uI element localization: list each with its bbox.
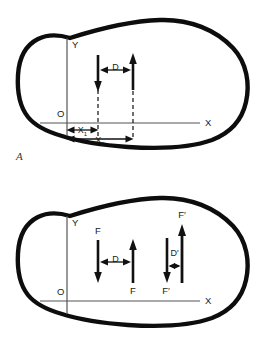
panel-b-drawing: F F D F′ xyxy=(0,178,267,356)
panel-a-drawing: D O Y X X1 X2 xyxy=(0,0,267,178)
y-axis-label-b: Y xyxy=(72,217,79,228)
force-arrow-down-right-b xyxy=(163,238,171,283)
origin-label-b: O xyxy=(57,286,64,297)
dimension-x2-label-a: X2 xyxy=(95,135,105,147)
force-label-f-top-left-b: F xyxy=(95,225,101,236)
dimension-d-label-a: D xyxy=(112,62,119,72)
force-arrow-up-right-b xyxy=(178,224,186,283)
force-label-f-bottom-left-b: F xyxy=(130,285,136,296)
origin-label-a: O xyxy=(57,108,64,119)
force-arrow-down-left-b xyxy=(94,240,102,283)
force-arrow-up-left-b xyxy=(129,239,137,283)
dimension-x1-label-a: X1 xyxy=(78,125,88,137)
figure-root: D O Y X X1 X2 xyxy=(0,0,267,356)
panel-a: D O Y X X1 X2 xyxy=(0,0,267,178)
dimension-d-label-right-b: D′ xyxy=(170,248,179,258)
d-prime-mark: ′ xyxy=(177,248,179,258)
force-label-fprime-top-right-b: F′ xyxy=(178,209,186,220)
dimension-d-label-left-b: D xyxy=(112,254,119,264)
force-label-fprime-bottom-right-b: F′ xyxy=(162,285,170,296)
panel-b: F F D F′ xyxy=(0,178,267,356)
dimension-d-right-b xyxy=(169,263,181,269)
x1-subscript: 1 xyxy=(84,131,88,137)
y-axis-label-a: Y xyxy=(72,39,79,50)
force-arrow-down-a xyxy=(94,55,102,92)
x-axis-label-a: X xyxy=(205,117,212,128)
force-arrow-up-a xyxy=(129,53,137,90)
panel-caption-a: A xyxy=(16,150,23,162)
x-axis-label-b: X xyxy=(205,295,212,306)
